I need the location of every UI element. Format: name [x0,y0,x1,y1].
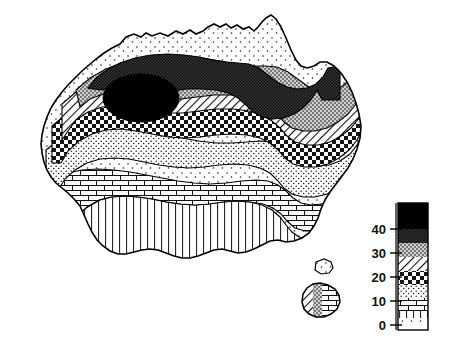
legend-band-10-20 [398,298,428,311]
figure-root: 40 30 20 10 0 [0,0,449,350]
legend-band-45-plus [398,203,428,229]
bass-strait-island [315,259,333,274]
legend-band-0-5 [398,318,428,330]
legend-tick-label-40: 40 [372,222,386,237]
legend-band-40-45 [398,229,428,243]
band-45-plus-core [103,74,179,122]
legend-tick-label-10: 10 [372,294,386,309]
legend-band-20-25 [398,285,428,298]
legend-band-35-40 [398,243,428,257]
legend-band-5-10 [398,311,428,318]
legend-tick-label-0: 0 [379,318,386,333]
legend-band-30-35 [398,257,428,271]
legend-tick-label-30: 30 [372,246,386,261]
legend[interactable]: 40 30 20 10 0 [372,203,428,333]
legend-bands [398,203,428,330]
legend-band-25-30 [398,271,428,285]
australia-isopleth-figure: 40 30 20 10 0 [0,0,449,350]
legend-tick-label-20: 20 [372,270,386,285]
